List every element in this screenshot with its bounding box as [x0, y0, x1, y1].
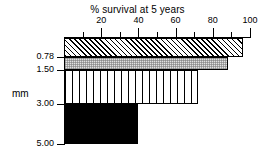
- x-tick-major: [101, 28, 102, 37]
- chart-title: % survival at 5 years: [0, 4, 275, 15]
- x-tick-label: 60: [163, 15, 189, 25]
- x-tick-minor: [194, 32, 195, 37]
- y-tick: [57, 144, 65, 145]
- x-tick-minor: [120, 32, 121, 37]
- y-tick-label: 0.78: [20, 51, 54, 61]
- x-tick-major: [176, 28, 177, 37]
- x-tick-major: [213, 28, 214, 37]
- y-axis-title: mm: [12, 88, 29, 99]
- x-tick-minor: [231, 32, 232, 37]
- bar-3.00-5.00: [64, 104, 138, 144]
- survival-bar-chart: % survival at 5 years 20406080100 0.781.…: [0, 0, 275, 153]
- x-tick-label: 40: [125, 15, 151, 25]
- x-tick-label: 100: [237, 15, 263, 25]
- bar-<0.78: [64, 38, 243, 57]
- y-tick-label: 5.00: [20, 138, 54, 148]
- x-tick-label: 80: [200, 15, 226, 25]
- y-tick-label: 3.00: [20, 98, 54, 108]
- x-tick-major: [138, 28, 139, 37]
- x-tick-minor: [83, 32, 84, 37]
- x-tick-major: [250, 28, 251, 37]
- y-tick-label: 1.50: [20, 64, 54, 74]
- bar-0.78-1.50: [64, 57, 228, 70]
- bar-1.50-3.00: [64, 70, 198, 104]
- plot-area: [64, 38, 250, 144]
- x-tick-label: 20: [88, 15, 114, 25]
- x-tick-minor: [157, 32, 158, 37]
